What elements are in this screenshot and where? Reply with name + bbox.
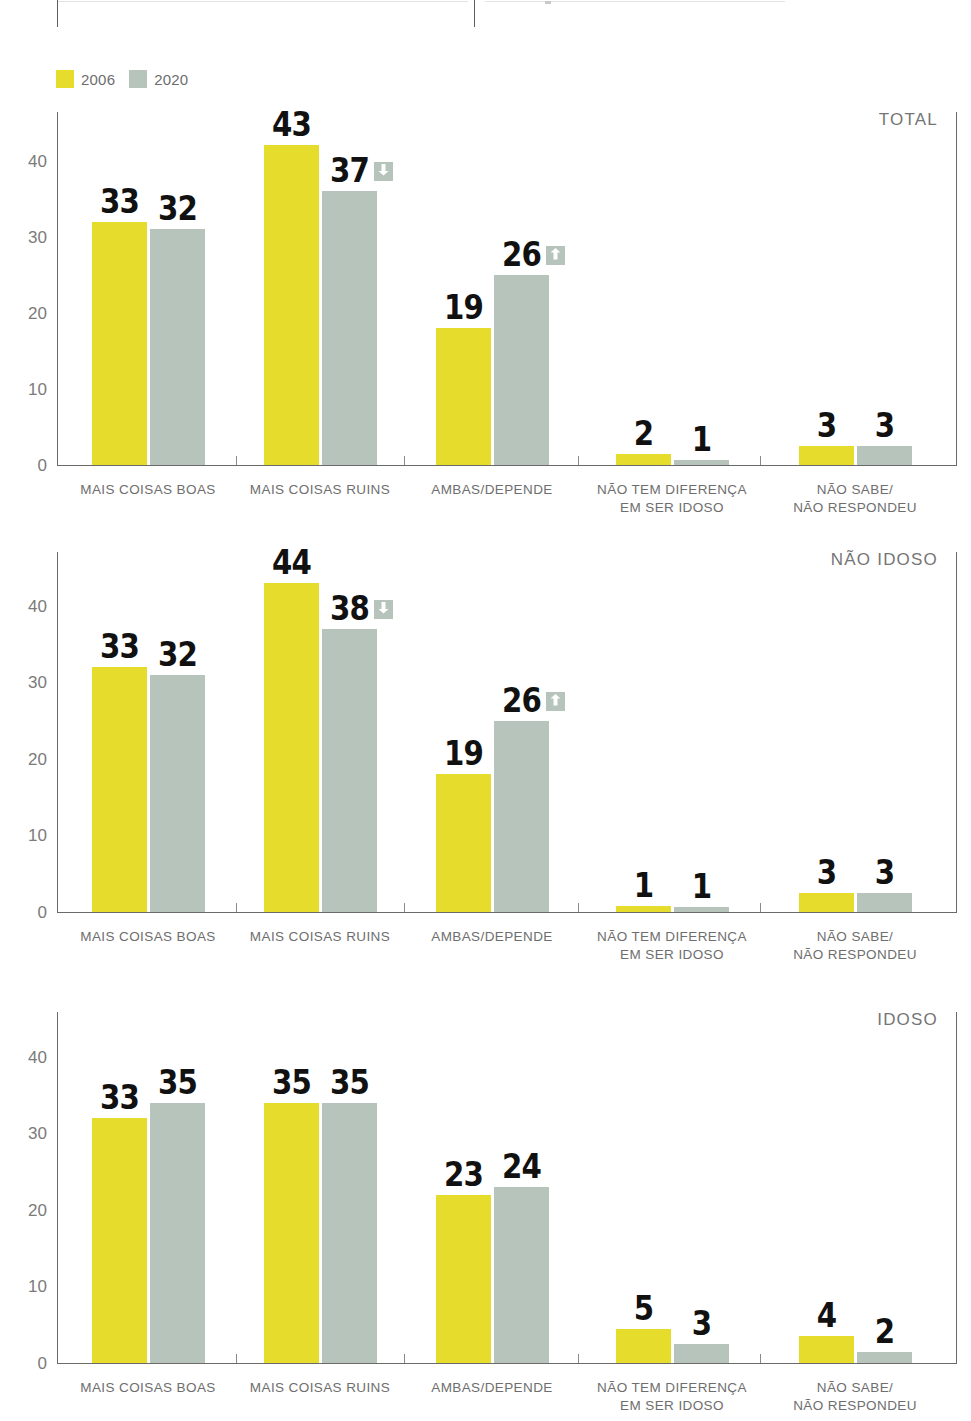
bar-2020[interactable] bbox=[674, 907, 729, 912]
bar-value-label: 24 bbox=[492, 1149, 550, 1183]
bar-value-label: 26 bbox=[492, 237, 550, 271]
bar-2006[interactable] bbox=[436, 1195, 491, 1363]
y-axis-tick-label: 0 bbox=[9, 1355, 47, 1372]
trend-up-icon bbox=[546, 246, 565, 265]
legend-label-2006: 2006 bbox=[81, 72, 115, 87]
x-axis-category-label: NÃO SABE/ NÃO RESPONDEU bbox=[745, 928, 965, 964]
y-axis-tick-label: 30 bbox=[9, 674, 47, 691]
y-axis-tick-label: 0 bbox=[9, 457, 47, 474]
bar-2006[interactable] bbox=[616, 454, 671, 465]
bar-2020[interactable] bbox=[674, 460, 729, 465]
bar-2006[interactable] bbox=[616, 1329, 671, 1363]
bar-value-label: 33 bbox=[90, 1080, 148, 1114]
bar-2020[interactable] bbox=[674, 1344, 729, 1363]
y-axis-tick-label: 10 bbox=[9, 827, 47, 844]
bar-2020[interactable] bbox=[150, 675, 205, 912]
y-axis-tick-label: 20 bbox=[9, 751, 47, 768]
x-axis-tick bbox=[578, 903, 579, 912]
y-axis-line bbox=[57, 112, 58, 466]
x-axis-tick bbox=[404, 456, 405, 465]
bar-value-label: 33 bbox=[90, 184, 148, 218]
trend-down-icon bbox=[374, 600, 393, 619]
bar-2006[interactable] bbox=[92, 222, 147, 465]
x-axis-category-label: NÃO SABE/ NÃO RESPONDEU bbox=[745, 481, 965, 517]
x-axis-tick bbox=[760, 456, 761, 465]
bar-value-label: 1 bbox=[672, 869, 730, 903]
y-axis-tick-label: 40 bbox=[9, 598, 47, 615]
bar-value-label: 32 bbox=[148, 191, 206, 225]
bar-2006[interactable] bbox=[799, 1336, 854, 1363]
bar-2006[interactable] bbox=[264, 1103, 319, 1363]
bar-value-label: 3 bbox=[797, 408, 855, 442]
legend-item-2020: 2020 bbox=[129, 70, 188, 88]
bar-value-label: 23 bbox=[434, 1157, 492, 1191]
y-axis-line bbox=[57, 552, 58, 913]
chart-legend: 2006 2020 bbox=[56, 70, 188, 88]
bar-2020[interactable] bbox=[857, 1352, 912, 1363]
y-axis-tick-label: 40 bbox=[9, 1049, 47, 1066]
bar-2006[interactable] bbox=[264, 145, 319, 465]
y-axis-tick-label: 10 bbox=[9, 1278, 47, 1295]
bar-2020[interactable] bbox=[322, 1103, 377, 1363]
top-divider-line-left bbox=[57, 0, 58, 27]
bar-2020[interactable] bbox=[857, 893, 912, 912]
top-divider-line-right bbox=[474, 0, 475, 27]
x-axis-tick bbox=[578, 1354, 579, 1363]
bar-2006[interactable] bbox=[799, 893, 854, 912]
bar-2006[interactable] bbox=[92, 1118, 147, 1363]
y-axis-tick-label: 20 bbox=[9, 1202, 47, 1219]
swatch-icon bbox=[129, 70, 147, 88]
bar-value-label: 5 bbox=[614, 1291, 672, 1325]
legend-item-2006: 2006 bbox=[56, 70, 115, 88]
x-axis-tick bbox=[404, 903, 405, 912]
bar-value-label: 35 bbox=[320, 1065, 378, 1099]
bar-value-label: 3 bbox=[855, 408, 913, 442]
bar-2006[interactable] bbox=[264, 583, 319, 912]
x-axis-tick bbox=[236, 1354, 237, 1363]
x-axis-line bbox=[57, 912, 957, 913]
top-rule-left bbox=[58, 1, 468, 2]
bar-value-label: 19 bbox=[434, 290, 492, 324]
bar-value-label: 33 bbox=[90, 629, 148, 663]
x-axis-category-label: NÃO SABE/ NÃO RESPONDEU bbox=[745, 1379, 965, 1415]
bar-value-label: 3 bbox=[855, 855, 913, 889]
bar-value-label: 2 bbox=[614, 416, 672, 450]
bar-2006[interactable] bbox=[92, 667, 147, 912]
bar-value-label: 32 bbox=[148, 637, 206, 671]
y-axis-tick-label: 10 bbox=[9, 381, 47, 398]
legend-label-2020: 2020 bbox=[154, 72, 188, 87]
bar-2020[interactable] bbox=[150, 229, 205, 465]
bar-2020[interactable] bbox=[857, 446, 912, 465]
bar-value-label: 1 bbox=[672, 422, 730, 456]
bar-value-label: 43 bbox=[262, 107, 320, 141]
bar-2020[interactable] bbox=[494, 1187, 549, 1363]
x-axis-line bbox=[57, 1363, 957, 1364]
bar-2006[interactable] bbox=[436, 328, 491, 465]
trend-up-icon bbox=[546, 692, 565, 711]
top-rule-right bbox=[485, 1, 785, 2]
bar-value-label: 4 bbox=[797, 1298, 855, 1332]
x-axis-tick bbox=[578, 456, 579, 465]
bar-2020[interactable] bbox=[322, 629, 377, 912]
bar-2020[interactable] bbox=[494, 721, 549, 912]
bar-2020[interactable] bbox=[494, 275, 549, 465]
panel-title: TOTAL bbox=[879, 110, 938, 130]
panel-title: NÃO IDOSO bbox=[831, 550, 938, 570]
bar-value-label: 1 bbox=[614, 868, 672, 902]
y-axis-tick-label: 30 bbox=[9, 1125, 47, 1142]
bar-2006[interactable] bbox=[436, 774, 491, 912]
x-axis-tick bbox=[760, 1354, 761, 1363]
y-axis-line bbox=[57, 1012, 58, 1364]
bar-2020[interactable] bbox=[322, 191, 377, 465]
y-axis-tick-label: 0 bbox=[9, 904, 47, 921]
bar-2006[interactable] bbox=[616, 906, 671, 912]
trend-down-icon bbox=[374, 162, 393, 181]
bar-2006[interactable] bbox=[799, 446, 854, 465]
bar-value-label: 3 bbox=[797, 855, 855, 889]
bar-value-label: 37 bbox=[320, 153, 378, 187]
bar-value-label: 19 bbox=[434, 736, 492, 770]
top-cropped-element bbox=[0, 0, 971, 40]
bar-2020[interactable] bbox=[150, 1103, 205, 1363]
top-tick-icon bbox=[545, 1, 551, 4]
y-axis-tick-label: 30 bbox=[9, 229, 47, 246]
